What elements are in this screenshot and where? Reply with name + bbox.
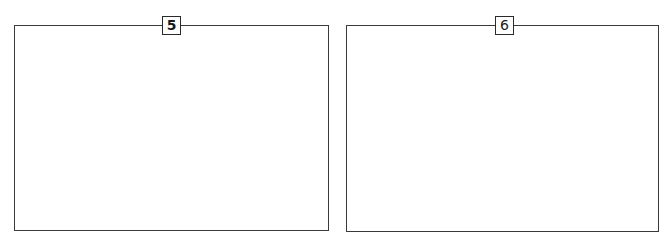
panel-6-label: 6 <box>495 16 514 35</box>
panel-6-frame <box>346 25 659 232</box>
panel-5-frame <box>14 25 329 231</box>
panel-5-label: 5 <box>162 16 181 35</box>
